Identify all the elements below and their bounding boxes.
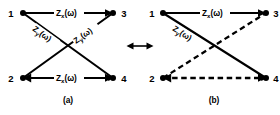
panel-b-node-label-1: 1 <box>149 8 155 19</box>
panel-b-node-4 <box>263 75 269 81</box>
panel-a-caption: (a) <box>63 95 73 105</box>
panel-a-edge-label-1-3: Zx(ω) <box>54 7 84 20</box>
panel-b-node-label-2: 2 <box>149 73 154 84</box>
panel-b-edge-label-1-3: Zx(ω) <box>200 7 230 20</box>
panel-a-node-label-4: 4 <box>121 73 127 84</box>
panel-b-node-1 <box>160 10 166 16</box>
panel-b-node-label-4: 4 <box>273 73 279 84</box>
panel-a-node-label-3: 3 <box>121 8 126 19</box>
figure-container: 1 3 2 4 Zx(ω) Zx(ω) Zy(ω) Zy(ω) <box>0 0 280 115</box>
panel-b-node-label-3: 3 <box>273 8 278 19</box>
panel-a-edge-label-2-3: Zy(ω) <box>71 21 102 48</box>
equivalence-arrow-head-left <box>127 43 134 50</box>
panel-b-node-2 <box>160 75 166 81</box>
panel-a-edge-label-2-4: Zx(ω) <box>54 72 84 85</box>
panel-b-edge-label-1-3-text: Zx(ω) <box>202 9 223 19</box>
panel-b-node-3 <box>263 10 269 16</box>
equivalence-arrow-head-right <box>147 43 154 50</box>
panel-a-node-2 <box>20 75 26 81</box>
panel-a-node-label-2: 2 <box>8 73 13 84</box>
panel-a-node-label-1: 1 <box>8 8 14 19</box>
panel-a-node-1 <box>20 10 26 16</box>
panel-a-edge-label-2-4-text: Zx(ω) <box>56 74 77 84</box>
panel-b-caption: (b) <box>209 95 220 105</box>
panel-a: 1 3 2 4 Zx(ω) Zx(ω) Zy(ω) Zy(ω) <box>8 7 127 106</box>
panel-a-edge-label-1-3-text: Zx(ω) <box>56 9 77 19</box>
panel-b: 1 3 2 4 Zx(ω) Zy(ω) (b) <box>149 7 279 106</box>
equivalence-arrow-icon <box>127 43 154 50</box>
panel-a-node-4 <box>110 75 116 81</box>
panel-a-node-3 <box>110 10 116 16</box>
